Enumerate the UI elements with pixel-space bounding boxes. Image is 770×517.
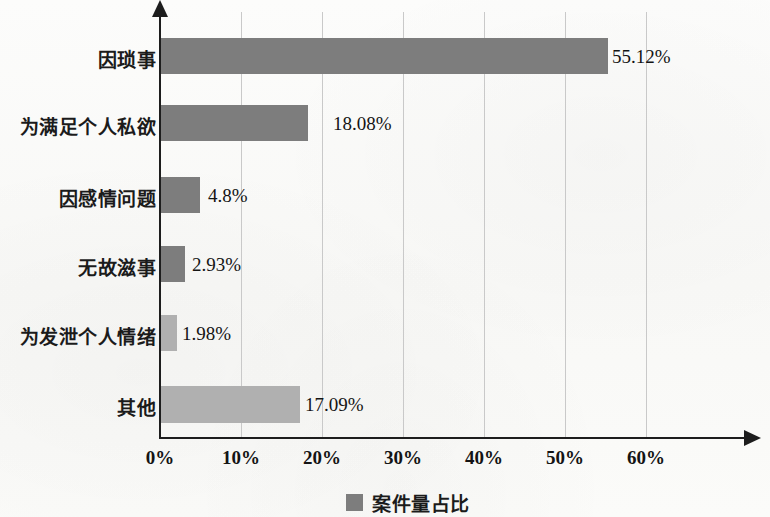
xtick-label-4: 40% bbox=[439, 447, 529, 469]
plot-area: 因琐事 为满足个人私欲 因感情问题 无故滋事 为发泄个人情绪 其他 55.12%… bbox=[0, 0, 770, 517]
category-label-3: 无故滋事 bbox=[78, 253, 156, 280]
x-axis-arrow bbox=[744, 430, 761, 446]
bar-无故滋事[interactable] bbox=[161, 246, 185, 282]
legend-swatch-icon bbox=[346, 494, 363, 511]
category-label-0: 因琐事 bbox=[98, 45, 157, 72]
gridline-10 bbox=[241, 12, 242, 437]
bar-为满足个人私欲[interactable] bbox=[161, 105, 308, 141]
bar-其他[interactable] bbox=[161, 386, 300, 423]
bar-chart: 因琐事 为满足个人私欲 因感情问题 无故滋事 为发泄个人情绪 其他 55.12%… bbox=[0, 0, 770, 517]
bar-因感情问题[interactable] bbox=[161, 177, 200, 213]
gridline-20 bbox=[322, 12, 323, 437]
value-label-0: 55.12% bbox=[612, 46, 671, 68]
gridline-40 bbox=[484, 12, 485, 437]
y-axis-arrow bbox=[152, 0, 168, 17]
legend: 案件量占比 bbox=[0, 489, 770, 516]
category-label-2: 因感情问题 bbox=[59, 184, 157, 211]
category-label-5: 其他 bbox=[117, 393, 156, 420]
category-label-4: 为发泄个人情绪 bbox=[20, 322, 157, 349]
xtick-label-3: 30% bbox=[358, 447, 448, 469]
xtick-label-5: 50% bbox=[520, 447, 610, 469]
xtick-label-1: 10% bbox=[196, 447, 286, 469]
value-label-2: 4.8% bbox=[208, 185, 248, 207]
value-label-1: 18.08% bbox=[333, 113, 392, 135]
value-label-5: 17.09% bbox=[305, 394, 364, 416]
gridline-50 bbox=[565, 12, 566, 437]
legend-label: 案件量占比 bbox=[372, 489, 470, 516]
value-label-4: 1.98% bbox=[182, 323, 231, 345]
xtick-label-2: 20% bbox=[277, 447, 367, 469]
xtick-label-0: 0% bbox=[115, 447, 205, 469]
bar-为发泄个人情绪[interactable] bbox=[161, 315, 177, 351]
y-axis-line bbox=[159, 12, 161, 439]
value-label-3: 2.93% bbox=[192, 254, 241, 276]
x-axis-line bbox=[159, 437, 745, 439]
category-label-1: 为满足个人私欲 bbox=[20, 112, 157, 139]
gridline-60 bbox=[646, 12, 647, 437]
gridline-30 bbox=[403, 12, 404, 437]
xtick-label-6: 60% bbox=[601, 447, 691, 469]
bar-因琐事[interactable] bbox=[161, 38, 608, 74]
